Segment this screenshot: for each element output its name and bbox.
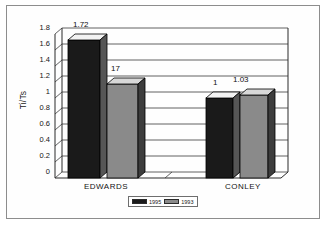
chart-screenshot: Ti/Ts 1.8 1.6 1.4 1.2 1 0.8 0.6 0.4 0.2 … <box>0 0 327 226</box>
data-label-edwards-1993: 17 <box>111 64 120 73</box>
plot-canvas <box>0 0 327 226</box>
bar-edwards-1995 <box>68 34 107 178</box>
legend-label-1993: 1993 <box>181 199 193 205</box>
legend-entry-1993: 1993 <box>164 199 193 205</box>
legend-entry-1995: 1995 <box>132 199 161 205</box>
x-tick-label-edwards: EDWARDS <box>66 182 146 191</box>
data-label-edwards-1995: 1.72 <box>73 20 89 29</box>
x-tick-label-conley: CONLEY <box>203 182 283 191</box>
y-axis-depth-ticks <box>55 28 62 178</box>
data-label-conley-1995: 1 <box>213 78 217 87</box>
legend-label-1995: 1995 <box>149 199 161 205</box>
bar-conley-1993 <box>240 89 275 178</box>
bar-chart: Ti/Ts 1.8 1.6 1.4 1.2 1 0.8 0.6 0.4 0.2 … <box>0 0 327 226</box>
legend-swatch-1995 <box>132 199 147 204</box>
bar-edwards-1993 <box>107 78 145 178</box>
bar-conley-1995 <box>206 92 240 178</box>
chart-legend: 1995 1993 <box>128 196 198 207</box>
legend-swatch-1993 <box>164 199 179 204</box>
data-label-conley-1993: 1.03 <box>233 75 249 84</box>
